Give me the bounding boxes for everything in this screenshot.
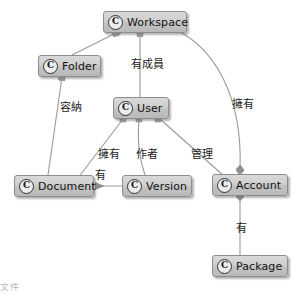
node-document-label: Document bbox=[38, 180, 96, 193]
edge-label-has-package: 有 bbox=[236, 219, 247, 235]
node-workspace[interactable]: C Workspace bbox=[103, 11, 187, 33]
cropped-caption-artifact: 文件 bbox=[0, 283, 44, 291]
edge-label-has-member: 有成員 bbox=[131, 55, 164, 71]
edge-label-manages: 管理 bbox=[191, 145, 213, 161]
edge-label-owns-account: 擁有 bbox=[232, 95, 254, 111]
node-user-label: User bbox=[137, 102, 162, 115]
class-icon: C bbox=[108, 15, 123, 30]
edge-label-owns-document: 擁有 bbox=[98, 145, 120, 161]
node-user[interactable]: C User bbox=[113, 97, 169, 119]
edge-label-has-version: 有 bbox=[95, 166, 106, 182]
class-diagram-canvas: C Workspace C Folder C User C Document C… bbox=[0, 0, 293, 295]
class-icon: C bbox=[43, 59, 58, 74]
node-document[interactable]: C Document bbox=[14, 175, 94, 197]
edge-folder-document bbox=[48, 77, 62, 175]
class-icon: C bbox=[217, 259, 232, 274]
class-icon: C bbox=[19, 179, 34, 194]
node-package-label: Package bbox=[236, 260, 282, 273]
node-version-label: Version bbox=[146, 180, 187, 193]
class-icon: C bbox=[127, 179, 142, 194]
node-folder[interactable]: C Folder bbox=[38, 55, 101, 77]
node-account-label: Account bbox=[236, 179, 281, 192]
node-folder-label: Folder bbox=[62, 60, 97, 73]
node-package[interactable]: C Package bbox=[212, 255, 288, 277]
edge-workspace-folder bbox=[72, 33, 116, 55]
edge-label-contains: 容納 bbox=[60, 98, 82, 114]
node-version[interactable]: C Version bbox=[122, 175, 192, 197]
class-icon: C bbox=[217, 178, 232, 193]
node-account[interactable]: C Account bbox=[212, 174, 288, 196]
edge-label-author: 作者 bbox=[136, 145, 158, 161]
node-workspace-label: Workspace bbox=[127, 16, 188, 29]
class-icon: C bbox=[118, 101, 133, 116]
